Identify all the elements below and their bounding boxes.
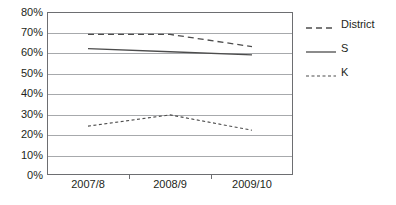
y-tick-label-60: 60% xyxy=(0,47,43,58)
long-dashed-line-icon xyxy=(306,19,336,29)
gridline-70 xyxy=(48,33,292,34)
legend-label-s: S xyxy=(341,42,348,54)
y-tick-label-10: 10% xyxy=(0,150,43,161)
legend-item-district[interactable]: District xyxy=(306,12,396,36)
legend-item-s[interactable]: S xyxy=(306,36,396,60)
gridline-40 xyxy=(48,94,292,95)
y-tick-label-30: 30% xyxy=(0,109,43,120)
y-tick-label-50: 50% xyxy=(0,68,43,79)
x-tick-label-2009-10: 2009/10 xyxy=(232,178,272,190)
legend: District S K xyxy=(306,12,396,84)
x-axis: 2007/8 2008/9 2009/10 xyxy=(47,178,293,198)
short-dashed-line-icon xyxy=(306,67,336,77)
y-tick-label-20: 20% xyxy=(0,129,43,140)
gridline-10 xyxy=(48,156,292,157)
line-chart: 80% 70% 60% 50% 40% 30% 20% 10% 0% 2007/… xyxy=(0,0,396,205)
y-axis: 80% 70% 60% 50% 40% 30% 20% 10% 0% xyxy=(0,0,43,205)
legend-label-district: District xyxy=(341,18,375,30)
x-tick-label-2008-9: 2008/9 xyxy=(153,178,187,190)
y-tick-label-0: 0% xyxy=(0,170,43,181)
plot-area xyxy=(47,12,293,175)
gridline-60 xyxy=(48,53,292,54)
y-tick-label-40: 40% xyxy=(0,88,43,99)
gridline-20 xyxy=(48,135,292,136)
gridline-30 xyxy=(48,115,292,116)
x-tick-label-2007-8: 2007/8 xyxy=(71,178,105,190)
legend-item-k[interactable]: K xyxy=(306,60,396,84)
y-tick-label-70: 70% xyxy=(0,27,43,38)
solid-line-icon xyxy=(306,43,336,53)
legend-label-k: K xyxy=(341,66,348,78)
y-tick-label-80: 80% xyxy=(0,7,43,18)
gridline-50 xyxy=(48,74,292,75)
